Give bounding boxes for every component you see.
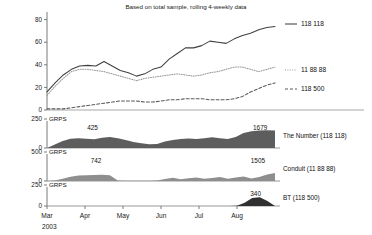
chart-canvas: Based on total sample, rolling 4-weekly … [0,0,372,235]
series-line-0 [47,26,275,92]
panel-axis-label-2: GRPS [49,181,67,188]
panel-annotation-1-0: 742 [91,157,102,164]
main-y-tick-label: 20 [35,84,43,91]
panel-y-tick-label-2: 0 [38,202,42,209]
main-y-tick-label: 0 [38,106,42,113]
panel-annotation-0-0: 425 [87,124,98,131]
x-tick-label-5: Aug [231,212,243,220]
main-y-tick-label: 60 [35,38,43,45]
panel-y-tick-label-0: 250 [31,115,42,122]
panel-axis-label-0: GRPS [49,115,67,122]
main-y-tick-label: 80 [35,16,43,23]
panel-area-1 [47,173,275,181]
x-tick-label-4: Jul [195,212,204,219]
panel-annotation-2-0: 340 [250,190,261,197]
chart-figure: Based on total sample, rolling 4-weekly … [0,0,372,235]
panel-name-1: Conduit (11 88 88) [283,165,335,173]
panel-y-tick-label-1: 500 [31,148,42,155]
panel-area-0 [47,130,275,148]
panel-annotation-0-1: 1679 [253,124,268,131]
x-tick-label-0: Mar [41,212,53,219]
panel-area-2 [47,197,275,206]
chart-title: Based on total sample, rolling 4-weekly … [125,3,247,10]
x-tick-label-2: May [117,212,130,220]
x-tick-label-3: Jun [156,212,167,219]
series-line-2 [47,83,275,109]
legend-label-2: 118 500 [301,85,325,92]
legend-label-1: 11 88 88 [301,66,327,73]
main-y-tick-label: 40 [35,61,43,68]
panel-name-0: The Number (118 118) [283,132,347,140]
legend-label-0: 118 118 [301,20,324,27]
panel-axis-label-1: GRPS [49,148,67,155]
panel-annotation-1-1: 1505 [251,157,266,164]
series-line-1 [47,67,275,95]
x-axis-year-label: 2003 [42,223,57,230]
panel-name-2: BT (118 500) [283,194,320,202]
panel-y-tick-label-2: 250 [31,181,42,188]
x-tick-label-1: Apr [80,212,91,220]
